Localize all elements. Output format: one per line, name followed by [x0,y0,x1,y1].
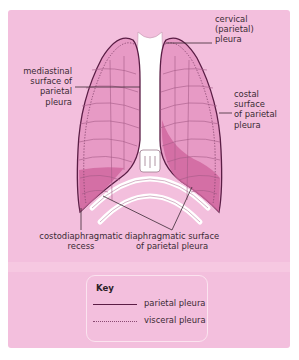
left-lung-icon [77,38,140,212]
label-mediastinal: mediastinal surface of parietal pleura [20,66,72,107]
legend-dotted-line-icon [93,321,137,322]
legend-label-visceral: visceral pleura [144,315,206,325]
label-costal: costal surface of parietal pleura [234,89,277,130]
legend-solid-line-icon [93,304,137,305]
right-lung-icon [160,38,222,212]
label-cervical: cervical (parietal) pleura [215,14,254,45]
legend-title: Key [96,283,114,293]
label-costodiaphragmatic: costodiaphragmatic recess [38,231,124,251]
legend-label-parietal: parietal pleura [144,298,205,308]
label-diaphragmatic: diaphragmatic surface of parietal pleura [124,231,220,251]
